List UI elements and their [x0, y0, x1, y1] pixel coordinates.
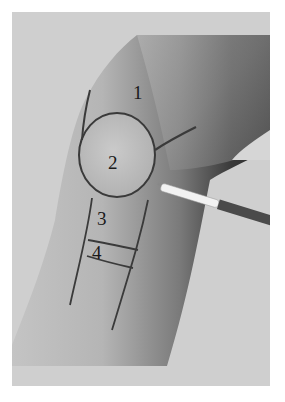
knee-photo: 1 2 3 4 — [12, 12, 270, 386]
region-label-4: 4 — [92, 243, 102, 262]
region-label-3: 3 — [97, 209, 107, 228]
region-label-1: 1 — [133, 83, 143, 102]
knee-illustration — [12, 12, 270, 386]
region-label-2: 2 — [108, 153, 118, 172]
